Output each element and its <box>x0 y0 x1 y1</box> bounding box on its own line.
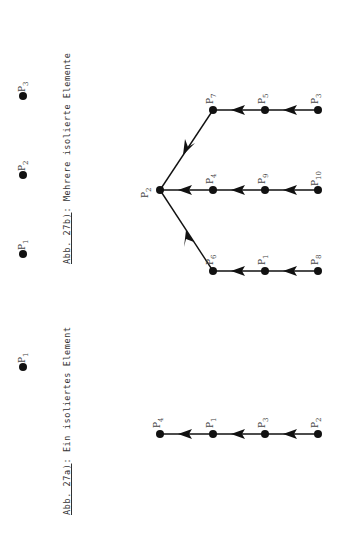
node-label-p10: P10 <box>310 171 323 186</box>
node-label-isolated-p3: P3 <box>17 81 30 92</box>
node-label-p7: P7 <box>205 93 218 104</box>
caption-27a-ref: Abb. 27a) <box>62 464 72 515</box>
node-label-p6: P6 <box>205 254 218 265</box>
caption-27b: Abb. 27b): Mehrere isolierte Elemente <box>62 52 72 264</box>
node-label-isolated-27a-p1: P1 <box>17 352 30 363</box>
chain-label-p1: P1 <box>205 417 218 428</box>
node-label-root-p2: P2 <box>140 187 153 198</box>
chain-label-p3: P3 <box>257 417 270 428</box>
node-label-p3: P3 <box>310 93 323 104</box>
diagram-graphics <box>0 0 349 534</box>
node-label-p9: P9 <box>257 173 270 184</box>
node-label-p4: P4 <box>205 173 218 184</box>
caption-27b-ref: Abb. 27b) <box>62 213 72 264</box>
node-label-p1: P1 <box>257 254 270 265</box>
node-label-isolated-p1: P1 <box>17 239 30 250</box>
caption-27a: Abb. 27a): Ein isoliertes Element <box>62 326 72 515</box>
caption-27a-text: : Ein isoliertes Element <box>62 326 72 463</box>
chain-label-p4: P4 <box>152 417 165 428</box>
node-label-p5: P5 <box>257 93 270 104</box>
node-label-p8: P8 <box>310 254 323 265</box>
node-label-isolated-p2: P2 <box>17 160 30 171</box>
caption-27b-text: : Mehrere isolierte Elemente <box>62 52 72 212</box>
chain-label-p2: P2 <box>310 417 323 428</box>
